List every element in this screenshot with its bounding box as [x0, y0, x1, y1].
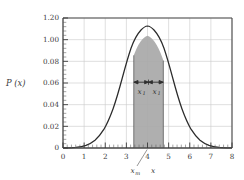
x-tick-label-5: 5 — [166, 152, 171, 161]
y-tick-label-4: 0.08 — [43, 57, 59, 66]
y-tick-label-0: 0 — [54, 143, 59, 152]
probability-distribution-chart: x 1 x 1 — [0, 0, 244, 180]
interval-arrow — [134, 80, 164, 85]
annotation-interval-right-subscript: 1 — [158, 90, 161, 96]
x-tick-label-4: 4 — [145, 152, 150, 161]
x-tick-label-2: 2 — [103, 152, 108, 161]
x-tick-label-8: 8 — [230, 152, 235, 161]
y-tick-label-1: 0.02 — [43, 122, 59, 131]
y-axis-title: P (x) — [5, 78, 26, 88]
figure-container: x 1 x 1 — [0, 0, 244, 180]
chart-background — [0, 0, 244, 180]
x-tick-label-1: 1 — [82, 152, 87, 161]
x-tick-label-3: 3 — [124, 152, 129, 161]
x-tick-label-6: 6 — [187, 152, 192, 161]
y-tick-label-6: 1.20 — [43, 13, 59, 22]
annotation-interval-left-subscript: 1 — [143, 90, 146, 96]
annotation-mean-marker-subscript: m — [135, 170, 140, 176]
y-tick-label-3: 0.06 — [43, 78, 59, 87]
x-tick-label-0: 0 — [61, 152, 66, 161]
y-tick-label-5: 1.00 — [43, 35, 59, 44]
x-tick-label-7: 7 — [209, 152, 214, 161]
y-tick-label-2: 0.04 — [43, 100, 59, 109]
